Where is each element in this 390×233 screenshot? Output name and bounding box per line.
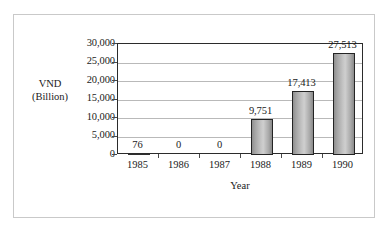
x-axis-tick-labels: 198519861987198819891990 [117, 159, 363, 173]
y-axis-tick-label: 25,000 [53, 56, 115, 66]
x-axis-tick-label: 1985 [117, 159, 158, 173]
bar-data-label: 76 [132, 139, 142, 150]
chart-figure: VND (Billion) 05,00010,00015,00020,00025… [0, 0, 390, 233]
bar-data-label: 0 [176, 139, 181, 150]
bar-series [118, 44, 364, 155]
x-axis-tick-label: 1990 [322, 159, 363, 173]
bar[interactable] [333, 53, 355, 155]
bar[interactable] [128, 154, 150, 156]
y-axis-tick-label: 0 [53, 149, 115, 159]
x-axis-tick-label: 1986 [158, 159, 199, 173]
x-axis-tick-mark [199, 154, 200, 158]
y-axis-tick-label: 5,000 [53, 130, 115, 140]
bar-slot [323, 44, 364, 155]
bar-data-label: 27,513 [328, 39, 356, 50]
bar[interactable] [251, 119, 273, 155]
y-axis-tick-mark [112, 154, 117, 155]
x-axis-tick-mark [322, 154, 323, 158]
y-axis-tick-label: 15,000 [53, 93, 115, 103]
x-axis-tick-label: 1987 [199, 159, 240, 173]
x-axis-tick-label: 1989 [281, 159, 322, 173]
bar-data-label: 9,751 [249, 105, 272, 116]
x-axis-tick-label: 1988 [240, 159, 281, 173]
x-axis-tick-mark [281, 154, 282, 158]
x-axis-tick-mark [240, 154, 241, 158]
bar-slot [241, 44, 282, 155]
bar-data-label: 0 [217, 139, 222, 150]
bar-slot [282, 44, 323, 155]
plot-area [117, 43, 363, 154]
bar[interactable] [292, 91, 314, 155]
y-axis-tick-label: 10,000 [53, 112, 115, 122]
bar-data-label: 17,413 [287, 77, 315, 88]
y-axis-tick-label: 30,000 [53, 38, 115, 48]
y-axis-tick-label: 20,000 [53, 75, 115, 85]
x-axis-title: Year [117, 180, 363, 191]
x-axis-tick-mark [158, 154, 159, 158]
